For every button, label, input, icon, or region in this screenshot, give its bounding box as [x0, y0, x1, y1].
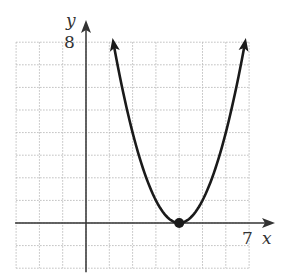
x-axis-label: x [262, 228, 272, 248]
x-tick-label-7: 7 [242, 228, 253, 248]
vertex-point [174, 218, 184, 228]
y-axis-label: y [65, 10, 76, 30]
parabola-graph: y 8 7 x [0, 0, 290, 275]
grid-lines [16, 42, 249, 268]
axes [15, 20, 275, 272]
y-tick-label-8: 8 [64, 32, 75, 52]
